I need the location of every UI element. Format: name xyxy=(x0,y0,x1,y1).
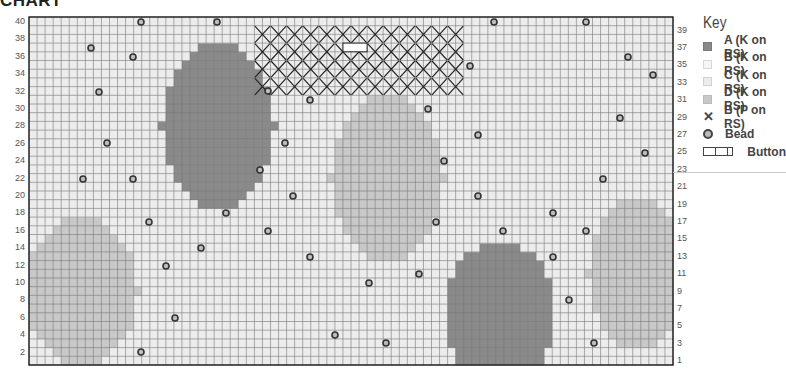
chart-cell xyxy=(295,304,303,313)
chart-cell xyxy=(279,165,287,174)
chart-cell xyxy=(190,17,198,26)
chart-cell xyxy=(166,156,174,165)
chart-cell xyxy=(383,269,391,278)
chart-cell xyxy=(415,252,423,261)
chart-cell xyxy=(657,104,665,113)
chart-cell xyxy=(512,87,520,96)
chart-cell xyxy=(504,348,512,357)
chart-cell xyxy=(665,156,673,165)
chart-cell xyxy=(214,235,222,244)
chart-cell xyxy=(29,165,37,174)
chart-cell xyxy=(166,174,174,183)
chart-cell xyxy=(37,226,45,235)
chart-cell xyxy=(45,322,53,331)
chart-cell xyxy=(37,278,45,287)
chart-cell xyxy=(295,217,303,226)
chart-cell xyxy=(375,313,383,322)
chart-cell xyxy=(593,34,601,43)
chart-cell xyxy=(512,148,520,157)
chart-cell xyxy=(295,226,303,235)
chart-cell xyxy=(383,226,391,235)
chart-cell xyxy=(110,261,118,270)
chart-cell xyxy=(295,330,303,339)
chart-cell xyxy=(641,34,649,43)
chart-cell xyxy=(448,295,456,304)
chart-cell xyxy=(53,113,61,122)
chart-cell xyxy=(327,356,335,365)
chart-cell xyxy=(61,174,69,183)
chart-cell xyxy=(584,78,592,87)
chart-cell xyxy=(295,252,303,261)
chart-cell xyxy=(230,69,238,78)
chart-cell xyxy=(665,191,673,200)
chart-cell xyxy=(93,34,101,43)
chart-cell xyxy=(182,261,190,270)
chart-cell xyxy=(214,269,222,278)
chart-cell xyxy=(214,104,222,113)
chart-cell xyxy=(568,330,576,339)
chart-cell xyxy=(166,52,174,61)
chart-cell xyxy=(617,34,625,43)
chart-cell xyxy=(552,104,560,113)
chart-cell xyxy=(85,356,93,365)
chart-cell xyxy=(576,339,584,348)
chart-cell xyxy=(464,208,472,217)
chart-cell xyxy=(520,34,528,43)
chart-cell xyxy=(222,165,230,174)
chart-cell xyxy=(593,243,601,252)
chart-cell xyxy=(295,156,303,165)
chart-cell xyxy=(568,78,576,87)
chart-cell xyxy=(375,191,383,200)
chart-cell xyxy=(61,330,69,339)
chart-cell xyxy=(206,121,214,130)
chart-cell xyxy=(166,17,174,26)
chart-cell xyxy=(399,322,407,331)
chart-cell xyxy=(464,156,472,165)
chart-cell xyxy=(198,61,206,70)
bead-icon xyxy=(366,280,372,286)
chart-cell xyxy=(399,261,407,270)
chart-cell xyxy=(407,17,415,26)
chart-cell xyxy=(85,330,93,339)
chart-cell xyxy=(85,243,93,252)
chart-cell xyxy=(134,252,142,261)
chart-cell xyxy=(158,95,166,104)
chart-cell xyxy=(77,182,85,191)
chart-cell xyxy=(287,243,295,252)
chart-cell xyxy=(166,322,174,331)
chart-cell xyxy=(423,121,431,130)
chart-cell xyxy=(271,348,279,357)
chart-cell xyxy=(101,182,109,191)
chart-cell xyxy=(617,191,625,200)
chart-cell xyxy=(456,174,464,183)
chart-cell xyxy=(359,104,367,113)
chart-cell xyxy=(126,26,134,35)
chart-cell xyxy=(335,252,343,261)
chart-cell xyxy=(271,295,279,304)
chart-cell xyxy=(440,269,448,278)
chart-cell xyxy=(391,95,399,104)
chart-cell xyxy=(29,69,37,78)
chart-cell xyxy=(134,148,142,157)
chart-cell xyxy=(77,356,85,365)
chart-cell xyxy=(625,330,633,339)
chart-cell xyxy=(456,261,464,270)
chart-cell xyxy=(69,322,77,331)
chart-cell xyxy=(198,121,206,130)
chart-cell xyxy=(496,287,504,296)
chart-cell xyxy=(45,17,53,26)
chart-cell xyxy=(496,235,504,244)
chart-cell xyxy=(230,243,238,252)
chart-cell xyxy=(480,113,488,122)
chart-cell xyxy=(77,87,85,96)
chart-cell xyxy=(544,322,552,331)
chart-cell xyxy=(568,130,576,139)
chart-cell xyxy=(214,69,222,78)
chart-cell xyxy=(93,226,101,235)
row-label-left: 14 xyxy=(15,242,25,252)
chart-cell xyxy=(399,243,407,252)
chart-cell xyxy=(190,330,198,339)
chart-cell xyxy=(45,278,53,287)
chart-cell xyxy=(174,243,182,252)
chart-cell xyxy=(423,269,431,278)
